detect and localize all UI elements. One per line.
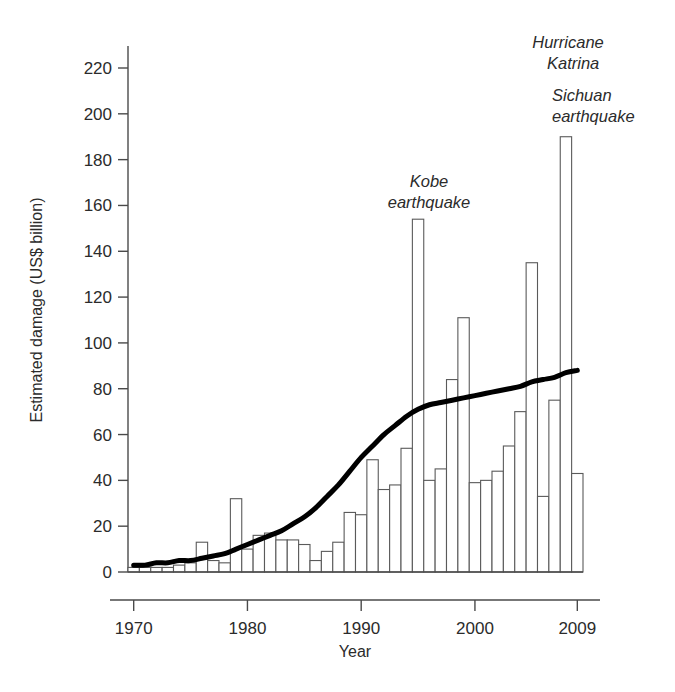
annotation-kobe-line1: Kobe (410, 172, 449, 190)
bar (424, 480, 435, 572)
bar (333, 542, 344, 572)
bar (208, 561, 219, 572)
annotation-kobe-line2: earthquake (388, 193, 471, 211)
bar (174, 565, 185, 572)
bar (299, 545, 310, 572)
x-tick-label: 2009 (558, 619, 596, 638)
bar (447, 380, 458, 572)
y-tick-label: 60 (93, 426, 112, 445)
y-tick-label: 20 (93, 517, 112, 536)
x-tick-label: 1990 (342, 619, 380, 638)
y-tick-label: 0 (103, 563, 112, 582)
annotation-sichuan-line2: earthquake (552, 107, 635, 125)
y-tick-label: 220 (84, 59, 112, 78)
annotation-sichuan-line1: Sichuan (552, 86, 612, 104)
bar (560, 137, 571, 572)
bar (435, 469, 446, 572)
bar (276, 540, 287, 572)
bar (321, 551, 332, 572)
bar (287, 540, 298, 572)
bar (538, 496, 549, 572)
bar (310, 561, 321, 572)
bar (390, 485, 401, 572)
bar (572, 473, 583, 572)
y-tick-label: 120 (84, 288, 112, 307)
bar (515, 412, 526, 572)
y-tick-label: 180 (84, 151, 112, 170)
x-tick-label: 1970 (115, 619, 153, 638)
bar (185, 563, 196, 572)
bar (378, 490, 389, 572)
y-tick-label: 40 (93, 471, 112, 490)
bar (503, 446, 514, 572)
bar (344, 512, 355, 572)
x-axis-title: Year (339, 643, 372, 660)
bar (549, 400, 560, 572)
y-tick-label: 160 (84, 196, 112, 215)
bar (492, 471, 503, 572)
y-tick-label: 80 (93, 380, 112, 399)
damage-by-year-chart: 020406080100120140160180200220 197019801… (0, 0, 675, 692)
bar (469, 483, 480, 572)
bar (219, 563, 230, 572)
bar (458, 318, 469, 572)
y-tick-label: 200 (84, 105, 112, 124)
x-tick-label: 2000 (456, 619, 494, 638)
bar (412, 219, 423, 572)
bar (526, 263, 537, 572)
bar (481, 480, 492, 572)
annotation-katrina-line1: Hurricane (532, 33, 604, 51)
bar (367, 460, 378, 572)
bar (230, 499, 241, 572)
bar (242, 549, 253, 572)
chart-figure: 020406080100120140160180200220 197019801… (0, 0, 675, 692)
y-axis-title: Estimated damage (US$ billion) (28, 198, 45, 423)
y-tick-label: 100 (84, 334, 112, 353)
y-tick-label: 140 (84, 242, 112, 261)
x-tick-label: 1980 (229, 619, 267, 638)
bar (401, 448, 412, 572)
annotation-katrina-line2: Katrina (547, 54, 599, 72)
bar (356, 515, 367, 572)
